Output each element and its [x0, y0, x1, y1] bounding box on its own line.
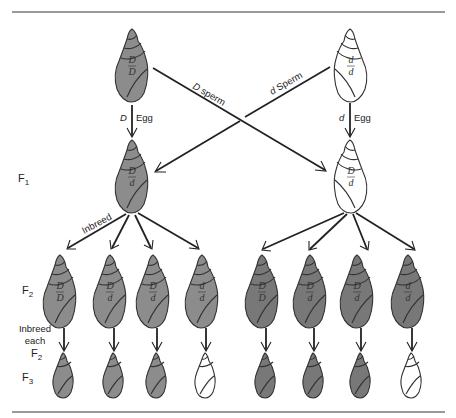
parent-left-snail: D D: [115, 29, 147, 102]
f2-snail: Dd: [293, 255, 325, 328]
genotype-top: D: [127, 54, 136, 65]
D-sperm-arrow: [153, 68, 326, 171]
f2-to-f3-arrows: [59, 328, 417, 351]
f2-snail: Dd: [93, 255, 125, 328]
f3-snail-dextral: [53, 353, 73, 398]
genotype-top: D: [346, 165, 355, 176]
right-egg-allele: d: [339, 112, 345, 123]
d-sperm-arrow: [155, 67, 330, 172]
f3-snail-dextral: [350, 353, 370, 398]
genotype-top: D: [305, 280, 314, 291]
genotype-bottom: D: [257, 292, 266, 303]
f2-label: F2: [22, 284, 34, 299]
left-egg-allele: D: [120, 112, 127, 123]
genotype-bottom: D: [127, 66, 136, 77]
f3-snail-sinistral: [401, 353, 421, 398]
genotype-top: D: [55, 280, 64, 291]
f3-label: F3: [22, 371, 34, 386]
left-egg-word: Egg: [136, 112, 153, 123]
genotype-top: D: [127, 165, 136, 176]
inbreed-each-label: Inbreed each F2: [19, 323, 51, 362]
genotype-top: D: [148, 280, 157, 291]
genotype-bottom: D: [55, 292, 64, 303]
f2-snail: dd: [185, 255, 217, 328]
f2-snail: Dd: [340, 255, 372, 328]
f2-snail: dd: [391, 255, 423, 328]
f3-snail-dextral: [303, 353, 323, 398]
genotype-top: D: [257, 280, 266, 291]
f1-left-snail: D d: [115, 140, 147, 213]
right-egg-word: Egg: [354, 112, 371, 123]
genotype-top: D: [105, 280, 114, 291]
f3-snail-dextral: [146, 353, 166, 398]
f3-snail-dextral: [103, 353, 123, 398]
f2-left-row: DDDdDddd: [43, 255, 217, 328]
f3-snail-sinistral: [195, 353, 215, 398]
f2-snail: Dd: [136, 255, 168, 328]
f2-right-row: DDDdDddd: [245, 255, 423, 328]
svg-text:each: each: [25, 335, 46, 346]
genotype-top: D: [352, 280, 361, 291]
f1-label: F1: [18, 172, 30, 187]
f1-right-to-f2-arrows: [262, 213, 415, 251]
f3-left-row: [53, 353, 215, 398]
f2-snail: DD: [245, 255, 277, 328]
svg-text:Inbreed: Inbreed: [19, 323, 51, 334]
f2-snail: DD: [43, 255, 75, 328]
f2-sub-label: F2: [31, 347, 43, 362]
snail-coiling-diagram: D D d d D Egg d Egg D sperm d Sperm F1: [0, 0, 456, 418]
f3-snail-dextral: [255, 353, 275, 398]
f3-right-row: [255, 353, 421, 398]
